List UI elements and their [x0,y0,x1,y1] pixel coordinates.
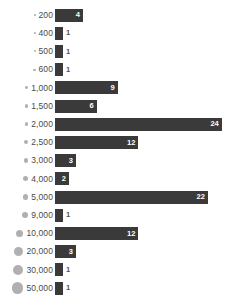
chart-row: 5,00022 [0,188,228,206]
size-bubble-icon [13,265,23,275]
size-bubble-icon [24,140,28,144]
row-label-cell: 200 [0,6,53,24]
bar-value-label: 1 [66,284,70,292]
bar-value-label: 2 [62,175,69,183]
bar-value-label: 1 [66,29,70,37]
size-bubble-icon [34,32,36,34]
size-bubble-icon [22,212,29,219]
bar: 24 [55,118,222,131]
row-bar-cell: 1 [55,261,228,279]
row-bar-cell: 24 [55,115,228,133]
category-label: 20,000 [26,247,53,256]
bar: 9 [55,81,118,94]
row-label-cell: 20,000 [0,243,53,261]
size-bubble-icon [34,50,36,52]
category-label: 500 [39,47,53,56]
size-bubble-icon [24,158,28,162]
size-bubble-icon [23,176,28,181]
bar: 3 [55,245,76,258]
row-bar-cell: 3 [55,152,228,170]
bar-value-label: 3 [69,248,76,256]
category-label: 10,000 [26,229,53,238]
row-label-cell: 600 [0,61,53,79]
size-bubble-icon [16,230,23,237]
row-bar-cell: 12 [55,224,228,242]
category-label: 5,000 [31,193,53,202]
bar-value-label: 3 [69,157,76,165]
row-bar-cell: 1 [55,42,228,60]
row-bar-cell: 9 [55,79,228,97]
bar-value-label: 22 [197,193,208,201]
bar-value-label: 6 [90,102,97,110]
bar: 12 [55,136,138,149]
category-label: 50,000 [26,284,53,293]
row-bar-cell: 1 [55,24,228,42]
bar-value-label: 9 [110,84,117,92]
row-label-cell: 50,000 [0,279,53,297]
size-bubble-icon [23,194,29,200]
category-label: 200 [39,11,53,20]
row-label-cell: 4,000 [0,170,53,188]
size-bubble-icon [34,14,36,16]
size-bubble-icon [33,69,35,71]
chart-row: 2,50012 [0,133,228,151]
row-label-cell: 5,000 [0,188,53,206]
bar-value-label: 1 [66,48,70,56]
bar-value-label: 1 [66,266,70,274]
category-label: 1,500 [31,102,53,111]
bar-value-label: 1 [66,66,70,74]
bar: 22 [55,191,208,204]
row-label-cell: 30,000 [0,261,53,279]
chart-row: 2004 [0,6,228,24]
bar [55,282,63,295]
bar [55,263,63,276]
bar: 4 [55,9,83,22]
bar-value-label: 12 [127,230,138,238]
bar [55,27,63,40]
row-bar-cell: 4 [55,6,228,24]
bar [55,209,63,222]
chart-row: 6001 [0,61,228,79]
row-bar-cell: 2 [55,170,228,188]
chart-row: 20,0003 [0,243,228,261]
size-bubble-icon [25,122,29,126]
bar: 3 [55,154,76,167]
category-label: 1,000 [31,84,53,93]
row-label-cell: 10,000 [0,224,53,242]
category-label: 9,000 [31,211,53,220]
row-label-cell: 9,000 [0,206,53,224]
row-bar-cell: 22 [55,188,228,206]
chart-row: 30,0001 [0,261,228,279]
row-bar-cell: 1 [55,61,228,79]
row-label-cell: 1,000 [0,79,53,97]
row-bar-cell: 6 [55,97,228,115]
bar: 6 [55,100,97,113]
chart-row: 2,00024 [0,115,228,133]
bar-value-label: 24 [210,120,221,128]
row-label-cell: 400 [0,24,53,42]
category-label: 4,000 [31,175,53,184]
row-bar-cell: 1 [55,279,228,297]
bar: 12 [55,227,138,240]
category-label: 2,500 [31,138,53,147]
size-bubble-icon [14,247,23,256]
row-label-cell: 3,000 [0,152,53,170]
category-label: 3,000 [31,156,53,165]
row-label-cell: 500 [0,42,53,60]
row-label-cell: 1,500 [0,97,53,115]
row-label-cell: 2,500 [0,133,53,151]
category-label: 400 [39,29,53,38]
row-label-cell: 2,000 [0,115,53,133]
bar [55,63,63,76]
chart-row: 9,0001 [0,206,228,224]
bar: 2 [55,172,69,185]
row-bar-cell: 3 [55,243,228,261]
bar-value-label: 4 [76,11,83,19]
bar-value-label: 12 [127,139,138,147]
chart-row: 50,0001 [0,279,228,297]
row-bar-cell: 1 [55,206,228,224]
bar-value-label: 1 [66,211,70,219]
category-label: 2,000 [31,120,53,129]
chart-row: 3,0003 [0,152,228,170]
bar [55,45,63,58]
